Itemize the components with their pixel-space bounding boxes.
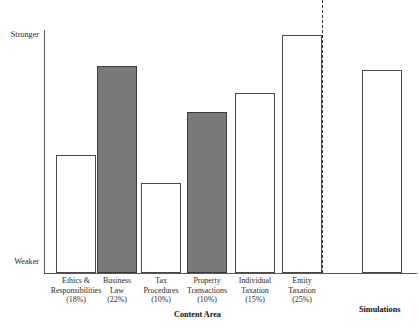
bar-chart: Stronger Weaker Ethics &Responsibilities… [0,0,419,329]
y-axis-label-weaker: Weaker [14,257,39,266]
y-axis-label-stronger: Stronger [11,30,39,39]
x-axis-title-content-area: Content Area [174,310,221,319]
bar-tax-procedures[interactable] [141,183,181,273]
x-axis-line [44,273,417,274]
bar-simulations[interactable] [362,70,402,273]
bar-ethics-responsibilities[interactable] [56,155,96,273]
bar-property-transactions[interactable] [187,112,227,273]
clipped-title-artifact [18,0,308,5]
plot-area [44,30,417,273]
group-divider-dashed-line [322,0,323,273]
bar-entity-taxation[interactable] [282,35,322,273]
x-axis-title-simulations: Simulations [359,305,400,314]
bar-business-law[interactable] [97,66,137,273]
category-label-entity-taxation: EntityTaxation(25%) [272,276,332,305]
bar-individual-taxation[interactable] [235,93,275,273]
